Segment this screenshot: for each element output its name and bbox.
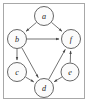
node-label-c: c [15,68,19,77]
node-a[interactable]: a [35,7,54,26]
node-e[interactable]: e [61,63,79,81]
node-label-e: e [68,68,72,77]
node-label-b: b [15,35,19,44]
edge-a-to-b [26,22,36,31]
node-b[interactable]: b [8,30,27,49]
edge-e-to-d [54,77,62,82]
diagram-canvas: abcdef [0,0,90,109]
edge-a-to-f [52,22,62,31]
edge-c-to-d [26,77,34,82]
node-layer: abcdef [8,7,81,98]
node-label-a: a [42,12,46,21]
directed-graph: abcdef [0,0,90,109]
node-d[interactable]: d [35,79,54,98]
node-f[interactable]: f [62,30,81,49]
node-c[interactable]: c [8,63,27,82]
